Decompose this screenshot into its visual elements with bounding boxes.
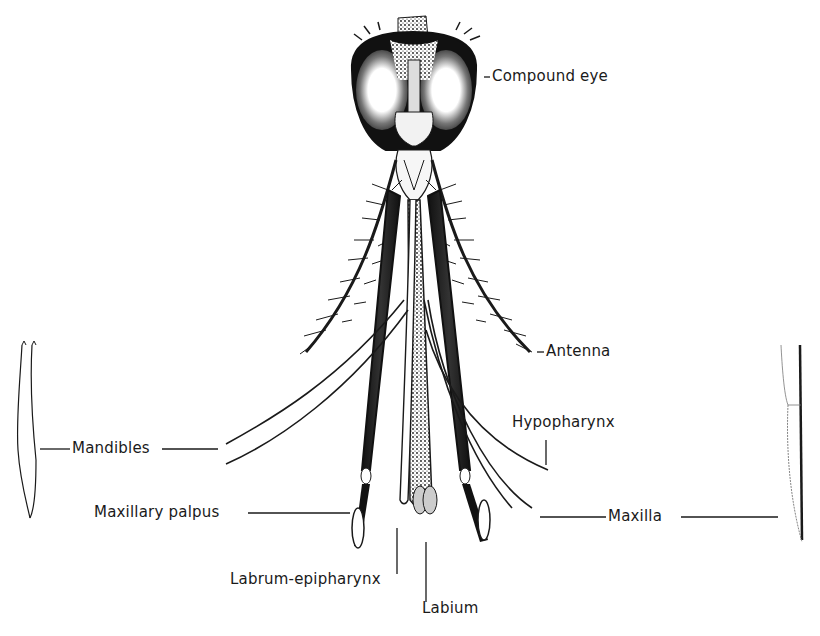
label-labrum-epipharynx: Labrum-epipharynx	[230, 571, 381, 588]
label-mandibles: Mandibles	[72, 440, 150, 457]
label-antenna: Antenna	[546, 343, 610, 360]
label-maxilla: Maxilla	[608, 508, 662, 525]
maxilla-detail-inset	[781, 345, 802, 542]
clypeus	[396, 150, 432, 200]
label-labium: Labium	[422, 600, 479, 617]
head	[352, 22, 480, 150]
mosquito-mouthparts-figure: Compound eye Antenna Mandibles Hypophary…	[0, 0, 820, 636]
maxillae	[424, 300, 532, 508]
illustration	[0, 0, 820, 636]
label-compound-eye: Compound eye	[492, 68, 608, 85]
label-hypopharynx: Hypopharynx	[512, 414, 615, 431]
mandible-detail-inset	[17, 341, 36, 518]
label-maxillary-palpus: Maxillary palpus	[94, 504, 219, 521]
